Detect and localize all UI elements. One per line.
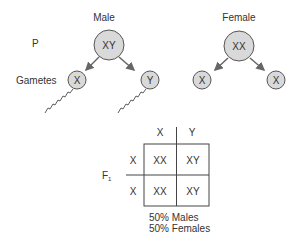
male-gamete-y: Y — [118, 71, 159, 113]
col-header-x: X — [157, 127, 164, 138]
sperm-tail-icon — [118, 89, 146, 113]
sex-determination-diagram: P Gametes Male Female XY X Y XX X X X Y … — [0, 0, 298, 238]
punnett-square: X Y X X XX XY XX XY — [126, 127, 209, 206]
arrow-icon — [86, 57, 99, 70]
arrow-icon — [119, 57, 134, 70]
cell-2-2: XY — [186, 186, 200, 197]
male-genotype: XY — [102, 40, 116, 51]
col-header-y: Y — [189, 127, 196, 138]
cell-2-1: XX — [153, 186, 167, 197]
row-header-2: X — [130, 186, 137, 197]
male-label: Male — [93, 12, 115, 23]
cell-1-2: XY — [186, 155, 200, 166]
male-parent-cell: XY — [94, 30, 124, 60]
arrow-icon — [250, 58, 264, 70]
female-gamete-x2: X — [267, 71, 285, 89]
parent-generation-label: P — [32, 38, 39, 49]
svg-text:X: X — [74, 75, 81, 86]
svg-text:Y: Y — [147, 75, 154, 86]
arrow-icon — [215, 58, 228, 70]
female-gamete-x1: X — [193, 71, 211, 89]
female-parent-cell: XX — [224, 31, 254, 61]
svg-text:X: X — [273, 75, 280, 86]
female-label: Female — [222, 12, 256, 23]
svg-text:X: X — [199, 75, 206, 86]
sperm-tail-icon — [45, 89, 73, 113]
result-females: 50% Females — [149, 223, 210, 234]
result-males: 50% Males — [149, 212, 198, 223]
female-genotype: XX — [232, 41, 246, 52]
cell-1-1: XX — [153, 155, 167, 166]
gametes-label: Gametes — [16, 75, 57, 86]
row-header-1: X — [130, 155, 137, 166]
f1-generation-label: F1 — [102, 170, 112, 182]
